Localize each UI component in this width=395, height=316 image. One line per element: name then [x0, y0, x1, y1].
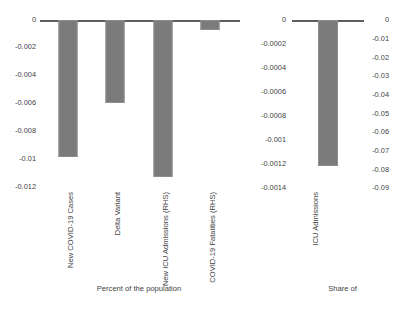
bar-new-covid-19-cases[interactable]: [58, 20, 77, 157]
axis-tick: -0.006: [15, 99, 36, 107]
left-panel-axis-title: Percent of the population: [44, 284, 234, 293]
axis-tick: 0: [282, 16, 286, 24]
axis-tick: -0.07: [372, 147, 389, 155]
axis-tick: -0.008: [15, 127, 36, 135]
axis-tick: -0.0004: [261, 64, 286, 72]
axis-tick: -0.05: [372, 110, 389, 118]
bar-slot: [139, 20, 187, 186]
bar-new-icu-admissions-rhs[interactable]: [153, 20, 172, 177]
bar-chart-figure: 0 -0.002 -0.004 -0.006 -0.008 -0.01 -0.0…: [0, 0, 395, 316]
axis-tick: -0.002: [15, 43, 36, 51]
axis-tick: -0.0008: [261, 112, 286, 120]
category-label-new-covid-19-cases: New COVID-19 Cases: [67, 192, 75, 268]
axis-tick: -0.08: [372, 166, 389, 174]
right-panel: 0 -0.01 -0.02 -0.03 -0.04 -0.05 -0.06 -0…: [290, 0, 395, 316]
axis-tick: -0.0002: [261, 40, 286, 48]
axis-tick: -0.04: [372, 91, 389, 99]
category-label-new-icu-admissions: New ICU Admissions (RHS): [162, 192, 170, 286]
axis-tick: -0.03: [372, 72, 389, 80]
category-label-delta-variant: Delta Variant: [114, 192, 122, 235]
category-label-covid-19-fatalities: COVID-19 Fatalities (RHS): [209, 192, 217, 283]
left-panel-secondary-value-axis: 0 -0.0002 -0.0004 -0.0006 -0.0008 -0.001…: [234, 0, 290, 316]
left-panel: 0 -0.002 -0.004 -0.006 -0.008 -0.01 -0.0…: [0, 0, 290, 316]
bar-slot: [44, 20, 92, 186]
left-plot-area: [44, 20, 234, 186]
axis-tick: -0.0012: [261, 160, 286, 168]
bar-slot: [92, 20, 140, 186]
bar-slot: [298, 20, 358, 186]
axis-tick: -0.01: [372, 35, 389, 43]
right-plot-area: [298, 20, 358, 186]
axis-tick: 0: [32, 16, 36, 24]
axis-tick: -0.02: [372, 54, 389, 62]
axis-tick: 0: [385, 16, 389, 24]
bar-covid-19-fatalities-rhs[interactable]: [201, 20, 220, 30]
axis-tick: -0.0014: [261, 184, 286, 192]
bar-slot: [187, 20, 235, 186]
axis-tick: -0.0006: [261, 88, 286, 96]
axis-tick: -0.001: [265, 136, 286, 144]
bar-icu-admissions[interactable]: [318, 20, 338, 166]
axis-tick: -0.09: [372, 184, 389, 192]
axis-tick: -0.012: [15, 183, 36, 191]
bar-delta-variant[interactable]: [106, 20, 125, 103]
axis-tick: -0.06: [372, 128, 389, 136]
axis-tick: -0.004: [15, 71, 36, 79]
axis-tick: -0.01: [19, 155, 36, 163]
right-panel-axis-title: Share of: [290, 284, 395, 293]
left-value-axis: 0 -0.002 -0.004 -0.006 -0.008 -0.01 -0.0…: [0, 0, 40, 316]
category-label-icu-admissions: ICU Admissions: [312, 192, 320, 246]
